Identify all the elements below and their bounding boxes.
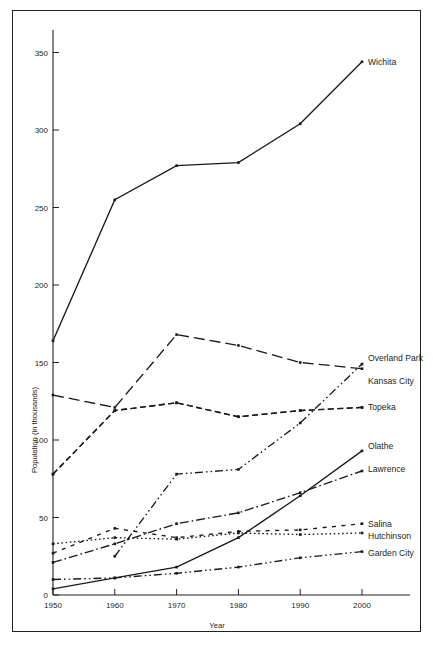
data-point-marker xyxy=(175,522,178,525)
x-axis-tick-label: 1970 xyxy=(168,601,186,610)
data-point-marker xyxy=(361,367,364,370)
data-point-marker xyxy=(175,473,178,476)
data-point-marker xyxy=(299,123,302,126)
data-point-marker xyxy=(175,402,178,405)
series-label-topeka: Topeka xyxy=(368,402,396,412)
series-line-topeka xyxy=(53,403,362,474)
y-axis-tick-label: 200 xyxy=(35,281,49,290)
x-axis-title: Year xyxy=(209,621,225,630)
line-chart-plot: 0501001502002503003501950196019701980199… xyxy=(0,0,433,653)
data-point-marker xyxy=(114,409,117,412)
series-line-overland-park xyxy=(53,403,362,474)
chart-axis-titles: Population (in thousands) Year xyxy=(30,386,225,630)
data-point-marker xyxy=(299,529,302,532)
data-point-marker xyxy=(299,422,302,425)
data-point-marker xyxy=(237,161,240,164)
series-label-hutchinson: Hutchinson xyxy=(368,531,411,541)
data-point-marker xyxy=(52,561,55,564)
series-label-overland-park: Overland Park xyxy=(368,353,424,363)
data-point-marker xyxy=(299,409,302,412)
series-label-wichita: Wichita xyxy=(368,57,396,67)
y-axis-tick-label: 350 xyxy=(35,49,49,58)
data-point-marker xyxy=(299,495,302,498)
chart-series xyxy=(52,61,364,591)
y-axis-tick-label: 0 xyxy=(44,591,49,600)
data-point-marker xyxy=(237,532,240,535)
series-line-salina xyxy=(53,524,362,553)
data-point-marker xyxy=(237,566,240,569)
data-point-marker xyxy=(52,340,55,343)
x-axis-tick-label: 2000 xyxy=(353,601,371,610)
data-point-marker xyxy=(114,555,117,558)
data-point-marker xyxy=(52,394,55,397)
data-point-marker xyxy=(114,536,117,539)
data-point-marker xyxy=(237,415,240,418)
series-label-salina: Salina xyxy=(368,519,392,529)
x-axis-tick-label: 1980 xyxy=(230,601,248,610)
data-point-marker xyxy=(114,543,117,546)
data-point-marker xyxy=(175,538,178,541)
data-point-marker xyxy=(175,572,178,575)
data-point-marker xyxy=(361,550,364,553)
y-axis-tick-label: 150 xyxy=(35,359,49,368)
data-point-marker xyxy=(175,566,178,569)
series-label-olathe: Olathe xyxy=(368,441,394,451)
series-line-wichita xyxy=(53,62,362,341)
data-point-marker xyxy=(52,473,55,476)
series-label-garden-city: Garden City xyxy=(368,548,415,558)
x-axis-tick-label: 1950 xyxy=(44,601,62,610)
data-point-marker xyxy=(237,468,240,471)
data-point-marker xyxy=(237,536,240,539)
data-point-marker xyxy=(299,361,302,364)
data-point-marker xyxy=(114,406,117,409)
y-axis-tick-label: 300 xyxy=(35,126,49,135)
data-point-marker xyxy=(361,450,364,453)
data-point-marker xyxy=(175,164,178,167)
series-label-lawrence: Lawrence xyxy=(368,464,405,474)
data-point-marker xyxy=(114,198,117,201)
series-line-olathe xyxy=(53,451,362,589)
y-axis-tick-label: 50 xyxy=(39,514,48,523)
series-line-garden-city xyxy=(53,552,362,580)
data-point-marker xyxy=(52,543,55,546)
y-axis-tick-label: 250 xyxy=(35,204,49,213)
data-point-marker xyxy=(299,533,302,536)
data-point-marker xyxy=(299,491,302,494)
series-line-kansas-city xyxy=(53,335,362,408)
data-point-marker xyxy=(52,578,55,581)
data-point-marker xyxy=(237,512,240,515)
data-point-marker xyxy=(361,61,364,64)
x-axis-tick-label: 1960 xyxy=(106,601,124,610)
chart-series-labels: WichitaKansas CityOverland ParkTopekaOla… xyxy=(368,57,424,558)
data-point-marker xyxy=(237,344,240,347)
data-point-marker xyxy=(361,363,364,366)
x-axis-tick-label: 1990 xyxy=(291,601,309,610)
data-point-marker xyxy=(114,577,117,580)
data-point-marker xyxy=(175,333,178,336)
data-point-marker xyxy=(361,406,364,409)
data-point-marker xyxy=(361,522,364,525)
series-label-kansas-city: Kansas City xyxy=(368,376,415,386)
data-point-marker xyxy=(52,588,55,591)
y-axis-title: Population (in thousands) xyxy=(30,386,39,473)
data-point-marker xyxy=(52,552,55,555)
data-point-marker xyxy=(361,532,364,535)
data-point-marker xyxy=(299,557,302,560)
chart-axes: 0501001502002503003501950196019701980199… xyxy=(35,30,410,610)
data-point-marker xyxy=(361,470,364,473)
chart-figure: 0501001502002503003501950196019701980199… xyxy=(0,0,433,653)
data-point-marker xyxy=(114,527,117,530)
